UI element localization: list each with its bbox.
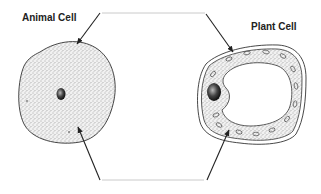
animal-cell (19, 42, 115, 144)
plant-vacuole (222, 63, 292, 126)
plant-cell-label: Plant Cell (251, 21, 297, 32)
plant-cell (198, 45, 306, 144)
animal-cell-membrane (19, 42, 115, 144)
animal-nucleus (57, 88, 66, 100)
plant-cell-wall-pointer (206, 14, 233, 52)
animal-cell-label: Animal Cell (22, 12, 76, 23)
animal-cell-membrane-pointer (77, 13, 100, 44)
cell-diagram: Animal Cell Plant Cell (0, 0, 321, 194)
plant-nucleus (207, 83, 221, 101)
